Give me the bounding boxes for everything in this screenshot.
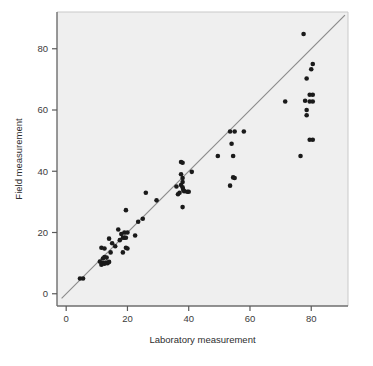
- scatter-plot-figure: 020406080020406080Laboratory measurement…: [0, 0, 373, 366]
- x-axis-tick-label: 80: [306, 313, 317, 324]
- data-point: [310, 137, 315, 142]
- data-point: [133, 233, 138, 238]
- data-point: [216, 154, 221, 159]
- data-point: [113, 244, 118, 249]
- data-point: [310, 99, 315, 104]
- data-point: [81, 276, 86, 281]
- data-point: [104, 255, 109, 260]
- data-point: [180, 160, 185, 165]
- data-point: [136, 219, 141, 224]
- y-axis-tick-label: 40: [37, 166, 48, 177]
- data-point: [144, 190, 149, 195]
- data-point: [304, 108, 309, 113]
- data-point: [228, 129, 233, 134]
- data-point: [232, 129, 237, 134]
- data-point: [229, 141, 234, 146]
- data-point: [301, 32, 306, 37]
- data-point: [102, 246, 107, 251]
- y-axis-tick-label: 80: [37, 43, 48, 54]
- data-point: [186, 189, 191, 194]
- data-point: [242, 129, 247, 134]
- x-axis-tick-label: 20: [122, 313, 133, 324]
- data-point: [231, 154, 236, 159]
- data-point: [232, 176, 237, 181]
- x-axis-tick-label: 40: [183, 313, 194, 324]
- data-point: [298, 154, 303, 159]
- data-point: [124, 235, 129, 240]
- data-point: [310, 62, 315, 67]
- y-axis-title: Field measurement: [13, 118, 24, 200]
- y-axis-tick-label: 20: [37, 227, 48, 238]
- y-axis-tick-label: 60: [37, 104, 48, 115]
- data-point: [228, 183, 233, 188]
- data-point: [310, 92, 315, 97]
- data-point: [116, 227, 121, 232]
- data-point: [108, 250, 113, 255]
- data-point: [107, 236, 112, 241]
- data-point: [154, 198, 159, 203]
- data-point: [304, 76, 309, 81]
- data-point: [174, 184, 179, 189]
- data-point: [125, 246, 130, 251]
- x-axis-tick-label: 60: [245, 313, 256, 324]
- data-point: [125, 230, 130, 235]
- data-point: [140, 216, 145, 221]
- data-point: [189, 170, 194, 175]
- x-axis-title: Laboratory measurement: [149, 334, 255, 345]
- data-point: [304, 113, 309, 118]
- data-point: [121, 250, 126, 255]
- data-point: [176, 192, 181, 197]
- data-point: [180, 176, 185, 181]
- chart-canvas: 020406080020406080Laboratory measurement…: [0, 0, 373, 366]
- data-point: [180, 180, 185, 185]
- data-point: [309, 67, 314, 72]
- y-axis-tick-label: 0: [43, 288, 48, 299]
- data-point: [180, 205, 185, 210]
- data-point: [283, 99, 288, 104]
- x-axis-tick-label: 0: [64, 313, 69, 324]
- data-point: [124, 208, 129, 213]
- data-point: [303, 99, 308, 104]
- data-point: [107, 260, 112, 265]
